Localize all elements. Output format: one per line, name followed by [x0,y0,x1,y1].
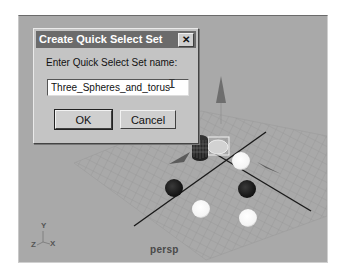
axis-gizmo [37,231,50,245]
text-cursor-icon: I [168,76,176,91]
sphere-dark-1 [165,179,183,197]
sphere-white-3 [239,209,257,227]
ok-button[interactable]: OK [55,110,112,129]
create-quick-select-set-dialog: Create Quick Select Set ✕ Enter Quick Se… [33,28,199,144]
set-name-prompt: Enter Quick Select Set name: [46,57,177,68]
dialog-title: Create Quick Select Set [39,33,163,45]
axis-label-x: X [50,239,55,248]
sphere-white-2 [192,200,210,218]
axis-label-z: Z [31,240,36,249]
sphere-white-1 [232,152,250,170]
axis-label-y: Y [41,221,46,230]
cancel-button[interactable]: Cancel [120,110,176,129]
camera-label: persp [150,244,179,255]
dialog-titlebar[interactable]: Create Quick Select Set ✕ [36,31,196,48]
sphere-dark-2 [238,180,256,198]
close-icon: ✕ [182,34,190,45]
close-button[interactable]: ✕ [178,33,194,47]
torus [208,140,228,154]
cone-upright [216,76,226,103]
